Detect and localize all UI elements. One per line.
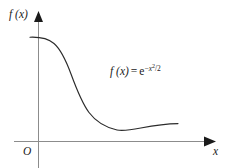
y-axis-arrowhead <box>34 11 43 22</box>
origin-label: O <box>23 146 31 158</box>
equation-lhs: f (x) <box>110 65 129 77</box>
gaussian-curve <box>30 37 178 130</box>
y-axis-label: f (x) <box>9 9 28 21</box>
equation-annotation: f (x)=e−x2/2 <box>110 65 161 78</box>
plot-canvas <box>0 0 232 168</box>
exponent-divisor: /2 <box>155 64 161 73</box>
function-plot-figure: f (x) O x f (x)=e−x2/2 <box>0 0 232 168</box>
x-axis-label: x <box>213 146 218 158</box>
equation-exponent: −x2/2 <box>144 64 160 73</box>
equation-equals-sign: = <box>129 65 140 77</box>
